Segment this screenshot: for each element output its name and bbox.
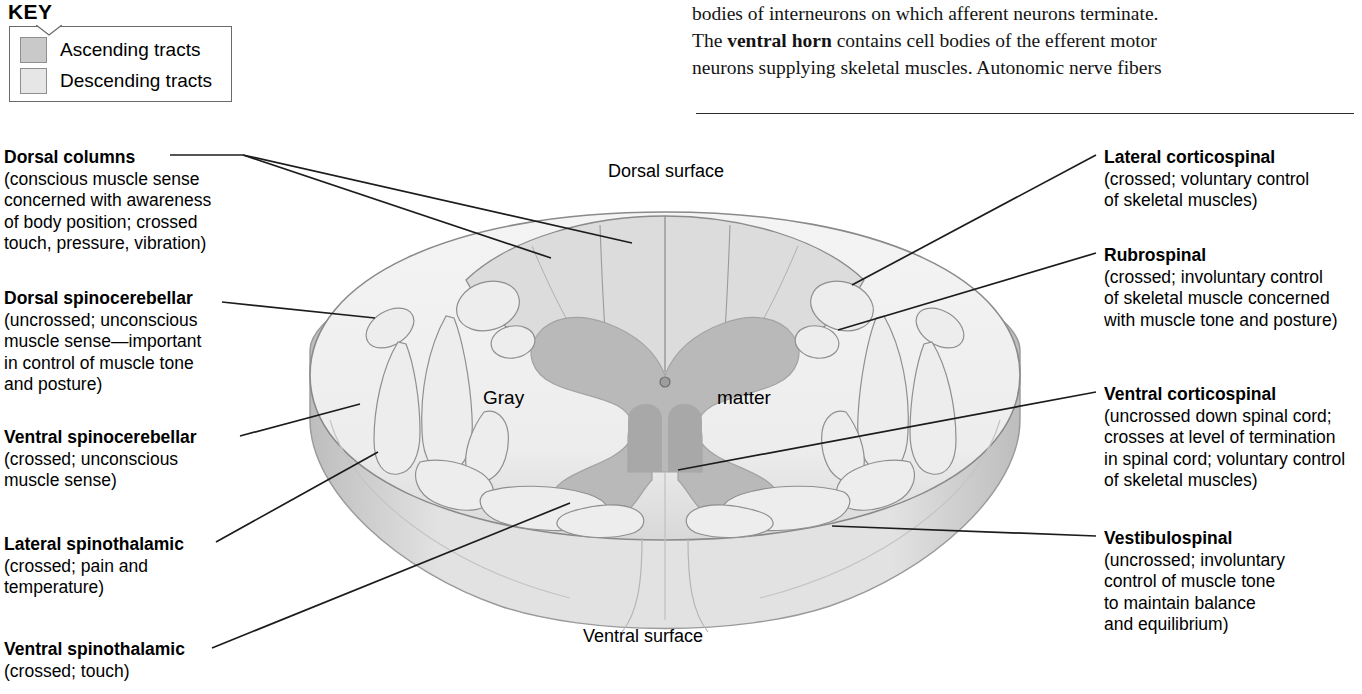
label-detail-line: control of muscle tone — [1104, 571, 1285, 593]
key-label-ascending: Ascending tracts — [60, 39, 200, 61]
key-box-notch — [36, 25, 62, 36]
label-ventral-spinocerebellar: Ventral spinocerebellar (crossed; uncons… — [4, 427, 197, 492]
label-vestibulospinal: Vestibulospinal (uncrossed; involuntary … — [1104, 528, 1285, 636]
label-detail-line: temperature) — [4, 577, 184, 599]
key-item-ascending: Ascending tracts — [20, 37, 200, 63]
label-heading: Ventral corticospinal — [1104, 384, 1345, 406]
horizontal-rule — [696, 113, 1354, 114]
label-detail-line: (uncrossed; involuntary — [1104, 550, 1285, 572]
body-term-bold: ventral horn — [727, 30, 832, 51]
label-detail-line: with muscle tone and posture) — [1104, 310, 1337, 332]
label-detail-line: and posture) — [4, 374, 201, 396]
label-matter: matter — [717, 387, 771, 409]
label-gray: Gray — [483, 387, 524, 409]
body-text-run: The — [692, 30, 727, 51]
label-heading: Dorsal columns — [4, 147, 211, 169]
key-box: Ascending tracts Descending tracts — [9, 26, 232, 102]
label-detail-line: and equilibrium) — [1104, 614, 1285, 636]
label-heading: Lateral corticospinal — [1104, 147, 1309, 169]
label-detail-line: crosses at level of termination — [1104, 427, 1345, 449]
body-text-run: neurons supplying skeletal muscles. Auto… — [692, 57, 1162, 78]
label-detail-line: (crossed; voluntary control — [1104, 169, 1309, 191]
label-lateral-spinothalamic: Lateral spinothalamic (crossed; pain and… — [4, 534, 184, 599]
label-ventral-surface: Ventral surface — [583, 626, 703, 648]
key-item-descending: Descending tracts — [20, 68, 212, 94]
label-ventral-corticospinal: Ventral corticospinal (uncrossed down sp… — [1104, 384, 1345, 492]
body-paragraph-line: neurons supplying skeletal muscles. Auto… — [692, 54, 1358, 81]
label-detail-line: muscle sense) — [4, 470, 197, 492]
label-detail-line: (crossed; involuntary control — [1104, 267, 1337, 289]
central-canal — [660, 377, 670, 387]
body-text-run: contains cell bodies of the efferent mot… — [832, 30, 1157, 51]
key-title: KEY — [8, 0, 52, 24]
label-detail-line: of skeletal muscles) — [1104, 470, 1345, 492]
body-paragraph-line: bodies of interneurons on which afferent… — [692, 0, 1358, 27]
label-dorsal-surface: Dorsal surface — [608, 161, 724, 183]
label-detail-line: of skeletal muscle concerned — [1104, 288, 1337, 310]
body-text-run: bodies of interneurons on which afferent… — [692, 3, 1158, 24]
label-heading: Dorsal spinocerebellar — [4, 288, 201, 310]
label-heading: Rubrospinal — [1104, 245, 1337, 267]
descending-swatch — [20, 68, 47, 94]
ascending-swatch — [20, 37, 47, 63]
label-detail-line: muscle sense—important — [4, 331, 201, 353]
label-heading: Lateral spinothalamic — [4, 534, 184, 556]
label-heading: Ventral spinocerebellar — [4, 427, 197, 449]
label-detail-line: to maintain balance — [1104, 593, 1285, 615]
label-rubrospinal: Rubrospinal (crossed; involuntary contro… — [1104, 245, 1337, 331]
label-detail-line: (crossed; pain and — [4, 556, 184, 578]
label-detail-line: of skeletal muscles) — [1104, 190, 1309, 212]
label-detail-line: (uncrossed down spinal cord; — [1104, 406, 1345, 428]
body-paragraph-line: The ventral horn contains cell bodies of… — [692, 27, 1358, 54]
label-detail-line: in control of muscle tone — [4, 353, 201, 375]
label-detail-line: (uncrossed; unconscious — [4, 310, 201, 332]
label-heading: Vestibulospinal — [1104, 528, 1285, 550]
label-dorsal-spinocerebellar: Dorsal spinocerebellar (uncrossed; uncon… — [4, 288, 201, 396]
page-root: bodies of interneurons on which afferent… — [0, 0, 1362, 694]
label-dorsal-columns: Dorsal columns (conscious muscle sense c… — [4, 147, 211, 255]
label-detail-line: (conscious muscle sense — [4, 169, 211, 191]
label-detail-line: concerned with awareness — [4, 190, 211, 212]
label-ventral-spinothalamic: Ventral spinothalamic (crossed; touch) — [4, 639, 185, 682]
label-detail-line: touch, pressure, vibration) — [4, 233, 211, 255]
label-detail-line: in spinal cord; voluntary control — [1104, 449, 1345, 471]
body-paragraph: bodies of interneurons on which afferent… — [692, 0, 1358, 81]
label-detail-line: of body position; crossed — [4, 212, 211, 234]
label-detail-line: (crossed; unconscious — [4, 449, 197, 471]
spinal-cord-cross-section — [270, 120, 1060, 680]
label-heading: Ventral spinothalamic — [4, 639, 185, 661]
label-lateral-corticospinal: Lateral corticospinal (crossed; voluntar… — [1104, 147, 1309, 212]
label-detail-line: (crossed; touch) — [4, 661, 185, 683]
key-label-descending: Descending tracts — [60, 70, 212, 92]
